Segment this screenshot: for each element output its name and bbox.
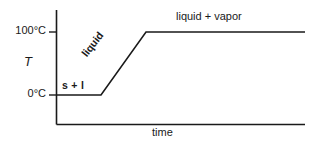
annotation-liquid-vapor: liquid + vapor xyxy=(176,11,242,22)
y-tick-label-100c: 100°C xyxy=(10,25,46,36)
plot-area xyxy=(0,0,321,143)
x-axis-label: time xyxy=(152,127,173,138)
y-axis-label: T xyxy=(24,55,32,68)
y-tick-label-0c: 0°C xyxy=(10,88,46,99)
heating-curve-figure: 100°C 0°C T s + l liquid liquid + vapor … xyxy=(0,0,321,143)
annotation-solid-liquid: s + l xyxy=(62,80,84,91)
